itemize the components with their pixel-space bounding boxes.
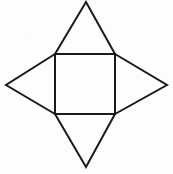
base-square-shape xyxy=(55,54,115,114)
net-diagram-svg: Net of a square pyramid A square with on… xyxy=(0,0,173,174)
figure-canvas: Net of a square pyramid A square with on… xyxy=(0,0,173,174)
top-triangle-shape xyxy=(55,2,115,54)
right-triangle-shape xyxy=(115,54,167,114)
left-triangle-shape xyxy=(6,54,55,114)
bottom-triangle-shape xyxy=(55,114,115,167)
